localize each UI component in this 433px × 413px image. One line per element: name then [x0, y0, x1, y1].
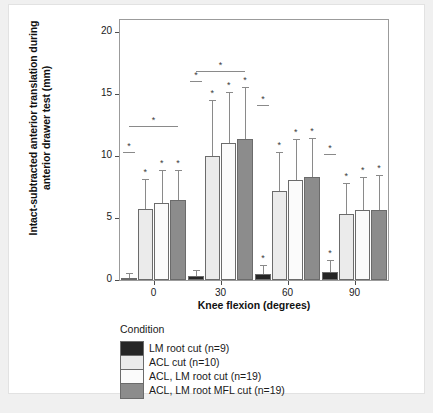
bar [371, 210, 387, 280]
x-tick-mark [154, 281, 155, 285]
bar [288, 180, 304, 280]
error-bar-cap [193, 270, 200, 271]
error-bar [379, 175, 380, 210]
x-tick-label: 30 [201, 287, 241, 298]
error-bar [178, 170, 179, 199]
error-bar [229, 92, 230, 143]
error-bar [330, 260, 331, 272]
significance-bracket [257, 105, 269, 106]
x-tick-label: 60 [268, 287, 308, 298]
significance-bracket [190, 81, 202, 82]
significance-star: * [206, 89, 218, 98]
y-axis-label: Intact-subtracted anterior translation d… [27, 19, 53, 237]
legend-swatches [120, 341, 144, 399]
significance-bracket-star: * [148, 116, 160, 125]
error-bar [212, 100, 213, 156]
bar [154, 203, 170, 280]
x-tick-mark [288, 281, 289, 285]
error-bar [363, 177, 364, 210]
error-bar-cap [327, 260, 334, 261]
y-axis: Intact-subtracted anterior translation d… [9, 19, 119, 281]
error-bar-cap [360, 177, 367, 178]
legend-item: LM root cut (n=9) [149, 341, 285, 355]
x-tick-label: 0 [134, 287, 174, 298]
significance-star: * [373, 164, 385, 173]
y-tick-label: 10 [101, 149, 112, 161]
error-bar [312, 138, 313, 178]
significance-star: * [156, 159, 168, 168]
legend-title: Condition [120, 323, 409, 335]
significance-star: * [357, 166, 369, 175]
error-bar [162, 170, 163, 202]
x-tick-mark [355, 281, 356, 285]
plot-panel: ******************** [119, 19, 389, 281]
significance-star: * [324, 249, 336, 258]
bar [205, 156, 221, 280]
bar [339, 214, 355, 280]
error-bar [296, 139, 297, 180]
bar [170, 200, 186, 280]
legend-labels: LM root cut (n=9)ACL cut (n=10)ACL, LM r… [149, 341, 285, 397]
bar [304, 177, 320, 280]
significance-star: * [306, 127, 318, 136]
error-bar-cap [209, 100, 216, 101]
significance-star: * [139, 168, 151, 177]
bar [255, 274, 271, 280]
significance-bracket [123, 152, 135, 153]
x-axis-label: Knee flexion (degrees) [119, 299, 389, 311]
error-bar-cap [226, 92, 233, 93]
legend-item: ACL, LM root cut (n=19) [149, 369, 285, 383]
significance-star: * [273, 141, 285, 150]
x-tick-label: 90 [335, 287, 375, 298]
significance-star: * [223, 81, 235, 90]
significance-bracket [324, 154, 336, 155]
figure-card: Intact-subtracted anterior translation d… [8, 4, 425, 394]
legend-swatch [121, 342, 143, 356]
error-bar [346, 183, 347, 214]
bar [188, 276, 204, 280]
x-tick-mark [221, 281, 222, 285]
legend-swatch [121, 370, 143, 384]
y-tick-label: 5 [106, 211, 112, 223]
error-bar-cap [260, 265, 267, 266]
error-bar-cap [126, 273, 133, 274]
significance-bracket-star: * [123, 142, 135, 151]
error-bar [245, 87, 246, 139]
bar [221, 143, 237, 280]
bar [322, 272, 338, 280]
error-bar [145, 179, 146, 209]
legend: Condition LM root cut (n=9)ACL cut (n=10… [119, 323, 409, 339]
significance-star: * [290, 128, 302, 137]
significance-bracket-star: * [190, 71, 202, 80]
plot-area: ******************** [120, 20, 388, 280]
legend-item: ACL cut (n=10) [149, 355, 285, 369]
error-bar [263, 265, 264, 274]
error-bar-cap [175, 170, 182, 171]
bar [272, 191, 288, 280]
legend-swatch [121, 356, 143, 370]
error-bar [279, 152, 280, 190]
error-bar-cap [159, 170, 166, 171]
significance-bracket [129, 126, 178, 127]
error-bar-cap [309, 138, 316, 139]
error-bar-cap [276, 152, 283, 153]
bar [138, 209, 154, 280]
significance-star: * [239, 76, 251, 85]
significance-star: * [257, 254, 269, 263]
significance-bracket-star: * [324, 144, 336, 153]
significance-star: * [172, 159, 184, 168]
bar [237, 139, 253, 280]
significance-bracket-star: * [257, 95, 269, 104]
error-bar-cap [376, 175, 383, 176]
error-bar-cap [242, 87, 249, 88]
error-bar-cap [293, 139, 300, 140]
y-tick-label: 0 [106, 273, 112, 285]
y-tick-label: 20 [101, 25, 112, 37]
significance-bracket [196, 71, 245, 72]
legend-swatch [121, 384, 143, 398]
error-bar-cap [142, 179, 149, 180]
legend-item: ACL, LM root MFL cut (n=19) [149, 383, 285, 397]
bar [121, 278, 137, 280]
error-bar-cap [343, 183, 350, 184]
significance-star: * [340, 172, 352, 181]
